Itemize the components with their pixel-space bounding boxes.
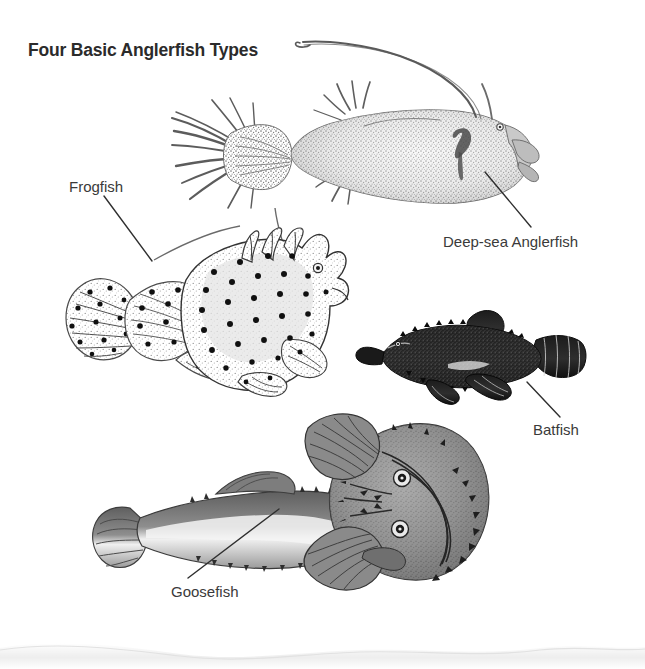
deepsea-pupil xyxy=(499,126,502,129)
label-frogfish: Frogfish xyxy=(69,178,123,195)
label-batfish: Batfish xyxy=(533,421,579,438)
label-deep-sea-anglerfish: Deep-sea Anglerfish xyxy=(443,233,578,250)
deepsea-caudal-base xyxy=(223,125,292,190)
batfish-pupil xyxy=(397,343,399,345)
batfish-snout xyxy=(356,347,384,365)
label-goosefish: Goosefish xyxy=(171,583,239,600)
figure-page: Four Basic Anglerfish Types Frogfish Dee… xyxy=(0,0,645,669)
frogfish-pupil xyxy=(316,266,320,270)
anglerfish-plate-illustration xyxy=(0,0,645,669)
page-title: Four Basic Anglerfish Types xyxy=(28,40,258,61)
